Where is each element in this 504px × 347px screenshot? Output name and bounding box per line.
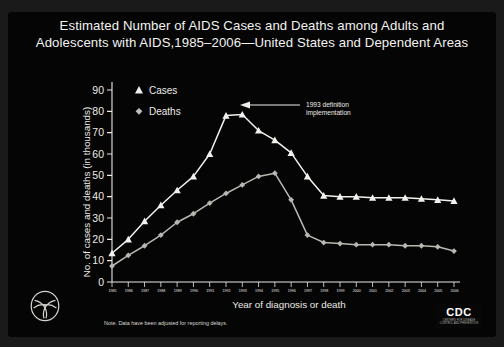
x-tick-label-1997: 1997 <box>304 289 312 293</box>
x-tick-label-1993: 1993 <box>239 289 247 293</box>
diamond-marker <box>136 108 143 115</box>
aids-cases-deaths-line-chart: 0102030405060708090 19851986198719881989… <box>8 12 496 337</box>
x-tick-label-2005: 2005 <box>434 289 442 293</box>
series-deaths <box>109 170 457 269</box>
chart-note: Note. Data have been adjusted for report… <box>104 320 227 326</box>
annotation-line-1: 1993 definition <box>306 101 349 108</box>
x-tick-label-2002: 2002 <box>385 289 393 293</box>
y-tick-label-40: 40 <box>92 190 104 202</box>
x-tick-label-1986: 1986 <box>125 289 133 293</box>
series-line <box>112 173 454 266</box>
x-axis-tick-group: 1985198619871988198919901991199219931994… <box>109 282 459 293</box>
diamond-marker <box>386 242 392 248</box>
annotation-line-2: implementation <box>306 109 351 117</box>
diamond-marker <box>353 242 359 248</box>
x-tick-label-1985: 1985 <box>109 289 117 293</box>
diamond-marker <box>370 242 376 248</box>
x-tick-label-1994: 1994 <box>255 289 263 293</box>
x-tick-label-2000: 2000 <box>353 289 361 293</box>
x-axis-title: Year of diagnosis or death <box>232 299 345 310</box>
diamond-marker <box>239 182 245 188</box>
diamond-marker <box>402 243 408 249</box>
y-tick-label-50: 50 <box>92 169 104 181</box>
diamond-marker <box>435 244 441 250</box>
diamond-marker <box>321 240 327 246</box>
y-tick-label-90: 90 <box>92 84 104 96</box>
y-tick-label-10: 10 <box>92 254 104 266</box>
x-tick-label-1995: 1995 <box>271 289 279 293</box>
y-tick-label-30: 30 <box>92 212 104 224</box>
x-tick-label-1987: 1987 <box>141 289 149 293</box>
x-tick-label-1996: 1996 <box>288 289 296 293</box>
x-tick-label-2006: 2006 <box>451 289 459 293</box>
y-axis-tick-group: 0102030405060708090 <box>92 84 112 288</box>
triangle-marker <box>135 86 143 93</box>
legend-label-deaths: Deaths <box>149 106 181 117</box>
cdc-tagline: CENTERS FOR DISEASE CONTROL AND PREVENTI… <box>436 319 482 326</box>
x-tick-label-1988: 1988 <box>157 289 165 293</box>
y-tick-label-60: 60 <box>92 148 104 160</box>
diamond-marker <box>305 232 311 238</box>
x-tick-label-1990: 1990 <box>190 289 198 293</box>
x-tick-label-1989: 1989 <box>174 289 182 293</box>
diamond-marker <box>419 243 425 249</box>
x-tick-label-1998: 1998 <box>320 289 328 293</box>
legend-label-cases: Cases <box>149 85 177 96</box>
y-tick-label-80: 80 <box>92 105 104 117</box>
diamond-marker <box>256 174 262 180</box>
x-tick-label-1999: 1999 <box>337 289 345 293</box>
cdc-wordmark: CDC <box>446 307 472 318</box>
chart-legend: Cases Deaths <box>135 85 181 117</box>
x-tick-label-2001: 2001 <box>369 289 377 293</box>
y-tick-label-70: 70 <box>92 126 104 138</box>
series-layer <box>108 111 457 269</box>
triangle-marker <box>206 150 213 157</box>
cdc-logo: CDC CENTERS FOR DISEASE CONTROL AND PREV… <box>436 304 482 328</box>
hhs-seal-icon <box>26 287 64 325</box>
x-tick-label-2004: 2004 <box>418 289 426 293</box>
x-tick-label-2003: 2003 <box>402 289 410 293</box>
x-tick-label-1992: 1992 <box>223 289 231 293</box>
y-tick-label-0: 0 <box>98 276 104 288</box>
triangle-marker <box>271 137 278 144</box>
x-tick-label-1991: 1991 <box>206 289 214 293</box>
slide-canvas: Estimated Number of AIDS Cases and Death… <box>8 12 496 337</box>
y-axis-title: No. of cases and deaths (in thousands) <box>81 107 92 277</box>
definition-change-annotation: 1993 definition implementation <box>240 101 351 117</box>
y-tick-label-20: 20 <box>92 233 104 245</box>
diamond-marker <box>337 241 343 247</box>
annotation-arrow-head <box>240 102 250 109</box>
diamond-marker <box>451 248 457 254</box>
